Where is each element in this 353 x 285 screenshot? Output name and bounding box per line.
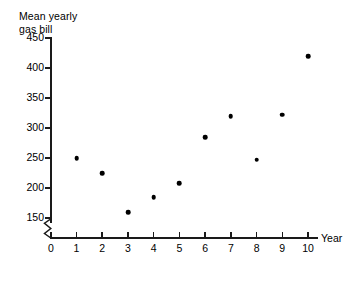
- x-axis-tick: [50, 232, 52, 238]
- data-point: [306, 54, 311, 59]
- x-axis-tick: [230, 232, 232, 238]
- data-point: [177, 181, 182, 186]
- x-axis-tick: [76, 232, 78, 238]
- y-axis-tick: [45, 157, 51, 159]
- y-axis-tick: [45, 37, 51, 39]
- x-axis-tick-label: 7: [228, 242, 234, 254]
- y-axis-tick-label: 350: [26, 91, 44, 103]
- x-axis-tick-label: 3: [125, 242, 131, 254]
- x-axis-tick-label: 6: [202, 242, 208, 254]
- y-axis-tick: [45, 67, 51, 69]
- y-axis-tick-label: 150: [26, 211, 44, 223]
- x-axis-tick-label: 4: [151, 242, 157, 254]
- scatter-plot-figure: Mean yearly gas bill Year 45040035030025…: [0, 0, 353, 285]
- data-point: [126, 210, 131, 215]
- data-point: [203, 135, 208, 140]
- y-axis-tick: [45, 127, 51, 129]
- x-axis-tick-label: 10: [302, 242, 314, 254]
- data-point: [74, 156, 79, 161]
- y-axis-tick: [45, 217, 51, 219]
- x-axis-tick: [101, 232, 103, 238]
- x-axis-tick: [282, 232, 284, 238]
- x-axis-tick: [204, 232, 206, 238]
- y-axis-tick-label: 250: [26, 151, 44, 163]
- data-point: [254, 158, 259, 163]
- y-axis-tick: [45, 97, 51, 99]
- data-point: [151, 195, 156, 200]
- x-axis-title: Year: [321, 232, 342, 244]
- y-axis-tick-label: 200: [26, 181, 44, 193]
- data-point: [100, 171, 105, 176]
- y-axis-tick: [45, 187, 51, 189]
- x-axis-tick: [179, 232, 181, 238]
- y-axis-tick-label: 450: [26, 31, 44, 43]
- data-point: [229, 114, 234, 119]
- x-axis-tick-label: 5: [176, 242, 182, 254]
- y-axis-tick-label: 400: [26, 61, 44, 73]
- x-axis-tick-label: 1: [74, 242, 80, 254]
- x-axis-tick: [127, 232, 129, 238]
- x-axis-tick-label: 9: [279, 242, 285, 254]
- data-point: [280, 113, 285, 118]
- x-axis-tick-label: 0: [48, 242, 54, 254]
- x-axis-tick-label: 2: [99, 242, 105, 254]
- x-axis-tick: [256, 232, 258, 238]
- y-axis-tick-label: 300: [26, 121, 44, 133]
- x-axis-tick: [307, 232, 309, 238]
- x-axis-tick-label: 8: [254, 242, 260, 254]
- x-axis-tick: [153, 232, 155, 238]
